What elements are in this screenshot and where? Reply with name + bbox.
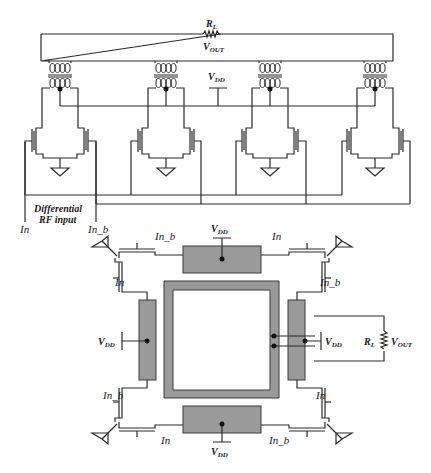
transformer-coil-icon: [171, 64, 176, 73]
gate-wire-in: [236, 141, 242, 195]
ring-tap-dot: [272, 334, 277, 339]
transformer-coil-icon: [265, 79, 270, 88]
diff-input-label-2: RF input: [38, 214, 78, 225]
h-drain-wire: [119, 252, 183, 258]
transformer-coil-icon: [375, 64, 380, 73]
load-label: RL: [205, 18, 217, 31]
amplifier-stage: [236, 61, 306, 204]
transformer-coil-icon: [380, 79, 385, 88]
transformer-coil-icon: [50, 79, 55, 88]
transformer-coil-icon: [375, 79, 380, 88]
transformer-coil-icon: [156, 79, 161, 88]
h-drain-wire: [119, 422, 183, 428]
transformer-core: [154, 75, 178, 77]
ground-icon: [157, 168, 175, 176]
right-vdd-label: VDD: [325, 336, 342, 349]
output-label: VOUT: [203, 41, 225, 54]
label-top-left-h: In_b: [154, 230, 176, 242]
transformer-coil-icon: [370, 64, 375, 73]
layout-output-label: VOUT: [391, 336, 413, 349]
layout-resistor-icon: [381, 331, 387, 349]
label-top-right-h: In: [271, 230, 282, 242]
bottom-vdd-label: VDD: [211, 446, 228, 459]
transformer-coil-icon: [275, 64, 280, 73]
transformer-coil-icon: [270, 64, 275, 73]
gate-wire-in-b: [403, 141, 410, 204]
gate-right-icon: [86, 129, 88, 152]
amplifier-stage: [131, 61, 201, 204]
amplifier-stage: [25, 61, 96, 204]
gate-left-icon: [242, 129, 244, 152]
transformer-coil-icon: [161, 64, 166, 73]
amplifier-stage: [342, 61, 410, 204]
transformer-coil-icon: [365, 79, 370, 88]
label-left-top-v: In: [114, 276, 125, 288]
gate-right-icon: [401, 129, 403, 152]
center-tap-dot: [164, 87, 169, 92]
center-tap-dot: [58, 87, 63, 92]
gate-wire-in: [25, 141, 32, 195]
transformer-coil-icon: [260, 79, 265, 88]
transformer-coil-icon: [260, 64, 265, 73]
transformer-coil-icon: [265, 64, 270, 73]
vdd-label: VDD: [208, 71, 225, 84]
transformer-coil-icon: [365, 64, 370, 73]
source-diagonal: [102, 424, 117, 439]
source-diagonal: [327, 241, 342, 256]
transformer-coil-icon: [65, 64, 70, 73]
transformer-core: [48, 75, 72, 77]
h-drain-wire: [261, 422, 325, 428]
transformer-coil-icon: [55, 64, 60, 73]
pad-right: [288, 300, 305, 380]
transformer-coil-icon: [166, 79, 171, 88]
in-label: In: [19, 223, 30, 235]
transformer-core: [363, 75, 387, 77]
top-schematic: RL VOUT VDD Differential RF input In In_…: [19, 18, 410, 235]
gate-left-icon: [347, 129, 349, 152]
transformer-coil-icon: [171, 79, 176, 88]
layout-load-label: RL: [363, 336, 375, 349]
source-diagonal: [327, 424, 342, 439]
v-drain-wire: [115, 380, 147, 422]
transformer-coil-icon: [55, 79, 60, 88]
ring-tap-dot: [272, 344, 277, 349]
transformer-coil-icon: [65, 79, 70, 88]
diagram-canvas: RL VOUT VDD Differential RF input In In_…: [0, 0, 431, 473]
transformer-coil-icon: [156, 64, 161, 73]
ground-icon: [261, 168, 279, 176]
label-bottom-left-h: In: [160, 434, 171, 446]
transformer-coil-icon: [370, 79, 375, 88]
circuit-diagram: RL VOUT VDD Differential RF input In In_…: [0, 0, 431, 473]
pad-left-dot: [145, 339, 150, 344]
transformer-coil-icon: [166, 64, 171, 73]
in-b-label: In_b: [87, 223, 109, 235]
label-bottom-right-h: In_b: [268, 434, 290, 446]
h-drain-wire: [261, 252, 325, 258]
diff-input-label-1: Differential: [33, 203, 82, 214]
top-vdd-label: VDD: [211, 223, 228, 236]
transformer-coil-icon: [275, 79, 280, 88]
transformer-coil-icon: [50, 64, 55, 73]
transformer-coil-icon: [60, 64, 65, 73]
source-diagonal: [102, 241, 117, 256]
label-right-bottom-v: In: [315, 389, 326, 401]
ground-icon: [51, 168, 69, 176]
primary-ring: [164, 281, 279, 398]
gate-left-icon: [138, 129, 140, 152]
ground-icon: [366, 168, 384, 176]
gate-wire-in: [131, 141, 138, 195]
gate-right-icon: [296, 129, 298, 152]
transformer-coil-icon: [60, 79, 65, 88]
label-left-bottom-v: In_b: [102, 389, 124, 401]
center-tap-dot: [268, 87, 273, 92]
vdd-tap: [209, 88, 227, 106]
pad-bottom-dot: [220, 422, 225, 427]
gate-right-icon: [192, 129, 194, 152]
bottom-layout: VDD RL VOUT VDD VDD VDD In_b In In In_b …: [92, 223, 413, 459]
transformer-coil-icon: [270, 79, 275, 88]
gate-left-icon: [32, 129, 34, 152]
transformer-coil-icon: [161, 79, 166, 88]
transformer-core: [258, 75, 282, 77]
center-tap-dot: [373, 87, 378, 92]
label-right-top-v: In_b: [319, 276, 341, 288]
